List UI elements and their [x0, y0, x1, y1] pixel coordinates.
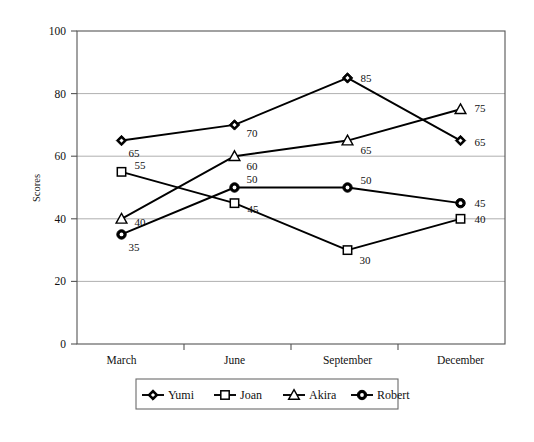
circle-marker-inner — [120, 233, 124, 237]
data-label-joan-december: 40 — [475, 213, 487, 225]
data-label-joan-june: 45 — [248, 203, 260, 215]
y-tick-label-80: 80 — [55, 88, 67, 100]
y-tick-label-20: 20 — [55, 275, 67, 287]
y-axis-title: Scores — [31, 174, 42, 202]
square-marker — [343, 246, 351, 254]
data-label-robert-september: 50 — [361, 174, 373, 186]
data-label-yumi-december: 65 — [475, 136, 487, 148]
line-chart-figure: 020406080100 Scores MarchJuneSeptemberDe… — [0, 0, 534, 442]
y-tick-label-0: 0 — [60, 338, 66, 350]
legend-label-robert: Robert — [377, 388, 410, 402]
x-tick-label-september: September — [323, 354, 372, 367]
circle-marker-inner — [360, 393, 364, 397]
data-label-robert-june: 50 — [247, 173, 259, 185]
data-point-joan-march — [117, 168, 125, 176]
legend-label-yumi: Yumi — [168, 388, 195, 402]
circle-marker-inner — [233, 186, 237, 190]
data-point-joan-december — [456, 215, 464, 223]
data-point-robert-june — [230, 183, 239, 192]
y-tick-label-60: 60 — [55, 150, 67, 162]
data-label-joan-september: 30 — [360, 254, 372, 266]
y-tick-label-40: 40 — [55, 213, 67, 225]
x-tick-label-june: June — [224, 354, 245, 366]
square-marker — [230, 199, 238, 207]
data-label-robert-december: 45 — [475, 197, 487, 209]
square-marker — [117, 168, 125, 176]
data-point-robert-march — [117, 230, 126, 239]
data-point-robert-december — [456, 198, 465, 207]
x-tick-label-december: December — [437, 354, 484, 366]
data-label-joan-march: 55 — [135, 159, 147, 171]
data-point-robert-september — [343, 183, 352, 192]
data-label-yumi-june: 70 — [247, 127, 259, 139]
y-tick-label-100: 100 — [49, 25, 67, 37]
data-label-yumi-march: 65 — [129, 147, 141, 159]
square-marker — [456, 215, 464, 223]
square-marker — [221, 391, 229, 399]
legend-label-akira: Akira — [309, 388, 337, 402]
data-point-joan-june — [230, 199, 238, 207]
data-label-akira-september: 65 — [361, 144, 373, 156]
legend-marker-robert — [357, 390, 366, 399]
chart-canvas: 020406080100 Scores MarchJuneSeptemberDe… — [0, 0, 534, 442]
chart-legend: YumiJoanAkiraRobert — [136, 379, 410, 409]
circle-marker-inner — [346, 186, 350, 190]
x-tick-label-march: March — [106, 354, 136, 366]
legend-label-joan: Joan — [240, 388, 262, 402]
data-label-akira-december: 75 — [475, 102, 487, 114]
circle-marker-inner — [459, 201, 463, 205]
data-label-yumi-september: 85 — [361, 72, 373, 84]
data-label-akira-june: 60 — [247, 160, 259, 172]
data-label-robert-march: 35 — [129, 241, 141, 253]
data-point-joan-september — [343, 246, 351, 254]
legend-marker-joan — [221, 391, 229, 399]
